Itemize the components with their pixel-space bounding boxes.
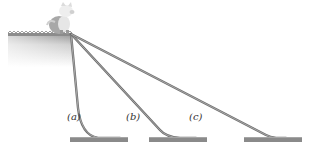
slide-a bbox=[71, 34, 120, 138]
ground-a bbox=[70, 137, 128, 142]
ground-c bbox=[244, 137, 302, 142]
label-a: (a) bbox=[67, 111, 81, 122]
pig-icon bbox=[47, 2, 75, 34]
label-c: (c) bbox=[189, 111, 202, 122]
ground-b bbox=[149, 137, 207, 142]
label-b: (b) bbox=[126, 111, 140, 122]
slide-c bbox=[71, 34, 286, 138]
diagram-canvas bbox=[0, 0, 312, 154]
ledge bbox=[8, 31, 72, 67]
slide-b bbox=[71, 34, 196, 138]
